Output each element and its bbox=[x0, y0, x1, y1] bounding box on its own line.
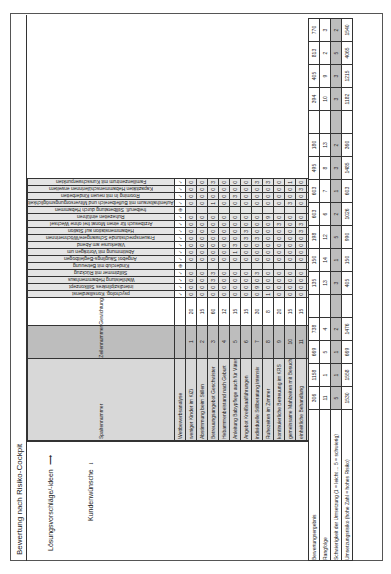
matrix-cell: 0 bbox=[273, 228, 284, 235]
matrix-cell: 0 bbox=[262, 242, 273, 249]
matrix-cell: 3 bbox=[229, 193, 240, 200]
solution-header: psycholog. Konsiliardienst bbox=[28, 291, 175, 298]
result-rank: 2 bbox=[320, 42, 331, 65]
result-risk: 603 bbox=[342, 180, 353, 203]
matrix-cell: 0 bbox=[262, 277, 273, 284]
matrix-cell: 0 bbox=[218, 249, 229, 256]
matrix-cell: 0 bbox=[229, 291, 240, 298]
result-result: 603 bbox=[309, 203, 320, 226]
matrix-cell: 0 bbox=[284, 270, 295, 277]
analysis-mark: ✓ bbox=[174, 242, 185, 249]
matrix-cell: 9 bbox=[251, 284, 262, 291]
wish-number: 9 bbox=[273, 325, 284, 358]
matrix-cell bbox=[207, 207, 218, 214]
wish-label: gemeinsame Mahlzeiten mit Besuch bbox=[284, 358, 295, 440]
matrix-cell: 0 bbox=[229, 277, 240, 284]
result-difficulty: 2 bbox=[331, 318, 342, 341]
matrix-cell bbox=[295, 207, 306, 214]
matrix-cell bbox=[284, 207, 295, 214]
table-row: individuelle Stillberatung intensiv73009… bbox=[251, 179, 262, 441]
matrix-cell: 0 bbox=[262, 249, 273, 256]
matrix-cell: 0 bbox=[207, 193, 218, 200]
matrix-cell: 0 bbox=[185, 270, 196, 277]
matrix-cell: 0 bbox=[251, 221, 262, 228]
result-difficulty: 5 bbox=[331, 42, 342, 65]
matrix-cell: 0 bbox=[262, 193, 273, 200]
matrix-cell: 3 bbox=[240, 228, 251, 235]
result-result: 394 bbox=[309, 88, 320, 111]
matrix-cell: 0 bbox=[196, 214, 207, 221]
matrix-cell bbox=[251, 207, 262, 214]
result-result: 135 bbox=[309, 272, 320, 295]
result-difficulty bbox=[331, 295, 342, 318]
matrix-cell: 0 bbox=[196, 235, 207, 242]
matrix-cell: 0 bbox=[262, 221, 273, 228]
matrix-cell bbox=[262, 207, 273, 214]
header-row-number: Zeilennummer bbox=[28, 325, 175, 358]
solution-label: Kinderclub mit Betreuung bbox=[73, 263, 129, 269]
axis-solutions-label: Lösungsvorschläge/-ideen bbox=[47, 469, 54, 551]
result-rank: 3 bbox=[320, 19, 331, 42]
matrix-cell: 0 bbox=[185, 221, 196, 228]
result-risk: 1485 bbox=[342, 157, 353, 180]
result-result: 770 bbox=[309, 19, 320, 42]
matrix-cell: 0 bbox=[295, 214, 306, 221]
matrix-cell: 0 bbox=[295, 270, 306, 277]
matrix-cell: 0 bbox=[229, 256, 240, 263]
matrix-cell: 0 bbox=[196, 186, 207, 193]
result-rank: 5 bbox=[320, 341, 331, 364]
matrix-cell: 0 bbox=[240, 179, 251, 186]
matrix-cell bbox=[251, 263, 262, 270]
matrix-cell: 0 bbox=[229, 186, 240, 193]
wish-number: 3 bbox=[207, 325, 218, 358]
matrix-cell: 0 bbox=[185, 242, 196, 249]
result-risk: 1558 bbox=[342, 364, 353, 387]
wish-label: Betreuungsangebot Geschwister bbox=[207, 358, 218, 440]
results-table: Bewertungsergebnis3061158669738135150198… bbox=[308, 18, 353, 561]
matrix-cell: 0 bbox=[218, 270, 229, 277]
matrix-cell: 0 bbox=[185, 193, 196, 200]
result-difficulty: 2 bbox=[331, 19, 342, 42]
wish-number: 4 bbox=[218, 325, 229, 358]
matrix-cell: 0 bbox=[196, 277, 207, 284]
matrix-cell: 0 bbox=[284, 284, 295, 291]
arrow-right-icon: ⟶ bbox=[47, 455, 54, 467]
matrix-cell: 0 bbox=[196, 200, 207, 207]
wish-label: Ruhezeiten im Zimmer bbox=[262, 358, 273, 440]
result-label: Schwierigkeit der Umsetzung (1 = leicht … bbox=[331, 410, 342, 561]
matrix-cell: 0 bbox=[229, 228, 240, 235]
result-rank: 10 bbox=[320, 88, 331, 111]
analysis-mark: ✓ bbox=[174, 193, 185, 200]
matrix-cell: 0 bbox=[218, 242, 229, 249]
wish-label: kontinuierliche Betreuung im KRS bbox=[273, 358, 284, 440]
matrix-cell: 0 bbox=[295, 200, 306, 207]
result-rank bbox=[320, 111, 331, 134]
result-result: 738 bbox=[309, 318, 320, 341]
wish-number: 10 bbox=[284, 325, 295, 358]
spacer bbox=[174, 298, 185, 325]
wish-weight: 12 bbox=[218, 298, 229, 325]
matrix-cell bbox=[196, 207, 207, 214]
matrix-cell: 1 bbox=[284, 179, 295, 186]
wish-label: einheitliche Behandlung bbox=[295, 358, 306, 440]
solution-label: Aufenthaltsraum mit Buffetbereich und Mi… bbox=[28, 200, 174, 206]
matrix-cell: 0 bbox=[262, 235, 273, 242]
matrix-cell bbox=[185, 207, 196, 214]
matrix-cell: 0 bbox=[262, 284, 273, 291]
wish-weight: 20 bbox=[185, 298, 196, 325]
result-result bbox=[309, 295, 320, 318]
solution-label: Hebammenstation auf Station bbox=[68, 228, 134, 234]
matrix-cell bbox=[229, 207, 240, 214]
matrix-cell: 0 bbox=[229, 200, 240, 207]
result-difficulty: 1 bbox=[331, 180, 342, 203]
solution-header: Hebammenstation auf Station bbox=[28, 228, 175, 235]
matrix-cell: 0 bbox=[284, 193, 295, 200]
matrix-cell: 0 bbox=[218, 221, 229, 228]
analysis-mark: ✓ bbox=[174, 200, 185, 207]
matrix-cell: 0 bbox=[284, 277, 295, 284]
analysis-mark: ✓ bbox=[174, 221, 185, 228]
matrix-cell: 0 bbox=[218, 256, 229, 263]
matrix-cell: 0 bbox=[218, 193, 229, 200]
table-row: Hebammenbeistand nach Geburt412000000000… bbox=[218, 179, 229, 441]
matrix-cell: 0 bbox=[196, 284, 207, 291]
